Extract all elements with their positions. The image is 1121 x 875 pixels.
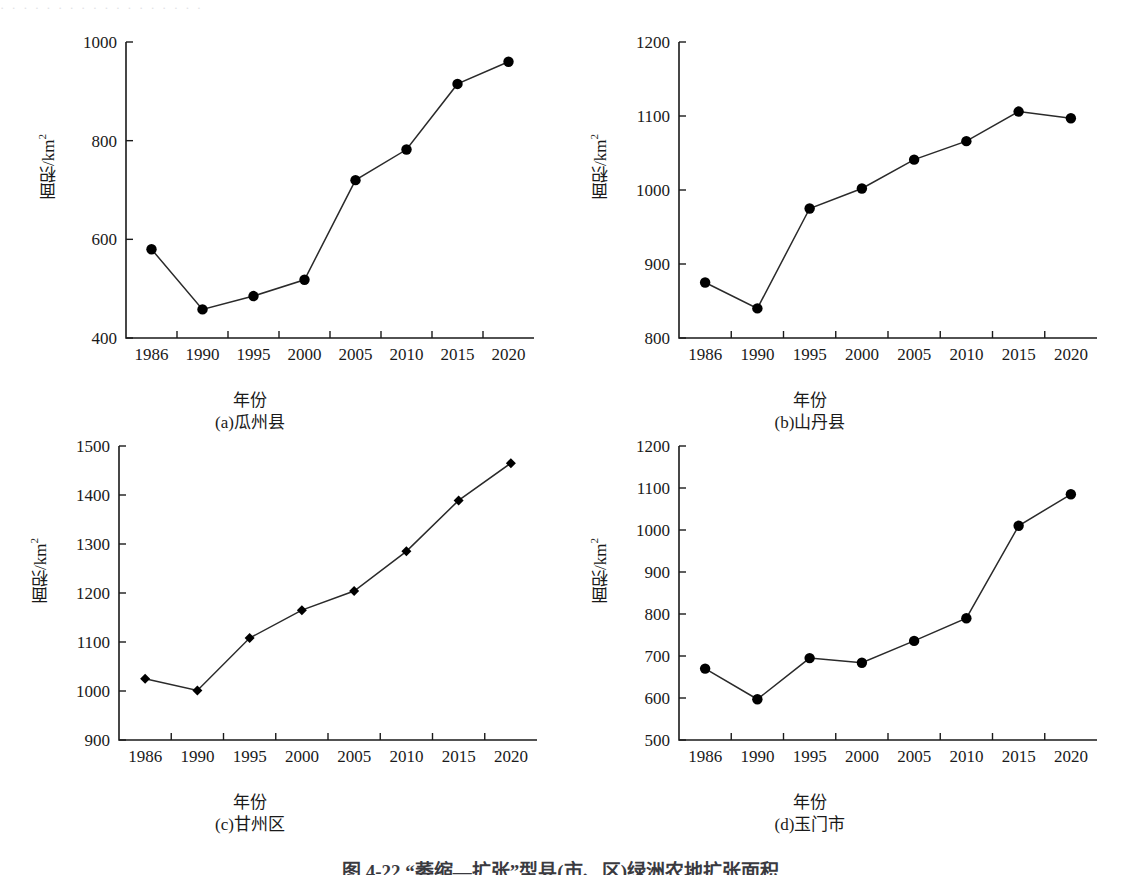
svg-text:2000: 2000 [845, 345, 879, 364]
svg-text:2005: 2005 [339, 345, 373, 364]
svg-text:2000: 2000 [288, 345, 322, 364]
svg-text:1100: 1100 [637, 479, 670, 498]
line-chart-d: 5006007008009001000110012001986199019952… [615, 434, 1105, 782]
svg-text:1200: 1200 [636, 33, 670, 52]
svg-text:1986: 1986 [135, 345, 169, 364]
svg-text:800: 800 [645, 605, 671, 624]
y-axis-unit-c: 面积/km2 [31, 538, 50, 604]
svg-text:1986: 1986 [688, 345, 722, 364]
y-axis-unit-d: 面积/km2 [591, 538, 610, 604]
svg-text:1400: 1400 [76, 486, 110, 505]
figure-panel-grid: 面积/km2 400600800100019861990199520002005… [0, 14, 1121, 824]
svg-text:1995: 1995 [793, 345, 827, 364]
svg-text:800: 800 [645, 329, 671, 348]
plot-area-b: 8009001000110012001986199019952000200520… [615, 30, 1105, 380]
svg-text:2005: 2005 [897, 747, 931, 766]
svg-text:2000: 2000 [285, 747, 319, 766]
y-axis-label-a: 面积/km2 [36, 134, 61, 200]
svg-text:1200: 1200 [76, 584, 110, 603]
line-chart-b: 8009001000110012001986199019952000200520… [615, 30, 1105, 380]
svg-text:600: 600 [645, 689, 671, 708]
svg-text:1990: 1990 [740, 345, 774, 364]
svg-text:900: 900 [645, 563, 671, 582]
subplot-caption-c: (c)甘州区 [170, 810, 330, 835]
svg-text:900: 900 [85, 731, 111, 750]
svg-text:2015: 2015 [441, 345, 475, 364]
svg-text:500: 500 [645, 731, 671, 750]
figure-caption: 图 4-22 “萎缩—扩张”型县(市、区)绿洲农地扩张面积 [0, 857, 1121, 875]
svg-text:1000: 1000 [83, 33, 117, 52]
svg-text:1995: 1995 [793, 747, 827, 766]
y-axis-label-d: 面积/km2 [588, 538, 613, 604]
svg-text:1300: 1300 [76, 535, 110, 554]
plot-area-a: 4006008001000198619901995200020052010201… [62, 30, 542, 380]
page-top-text-artifact: · · · · · · · · · · · · · · · · · · [0, 0, 1121, 14]
svg-text:2000: 2000 [845, 747, 879, 766]
svg-text:1995: 1995 [237, 345, 271, 364]
chart-panel-d: 面积/km2 500600700800900100011001200198619… [560, 420, 1121, 824]
svg-text:1000: 1000 [76, 682, 110, 701]
plot-area-d: 5006007008009001000110012001986199019952… [615, 434, 1105, 782]
svg-text:2015: 2015 [1002, 345, 1036, 364]
line-chart-a: 4006008001000198619901995200020052010201… [62, 30, 542, 380]
svg-text:900: 900 [645, 255, 671, 274]
svg-text:1986: 1986 [688, 747, 722, 766]
line-chart-c: 9001000110012001300140015001986199019952… [55, 434, 545, 782]
svg-text:600: 600 [92, 230, 118, 249]
svg-text:700: 700 [645, 647, 671, 666]
svg-text:2010: 2010 [390, 345, 424, 364]
subplot-caption-d: (d)玉门市 [730, 810, 890, 835]
svg-text:1100: 1100 [77, 633, 110, 652]
svg-text:1990: 1990 [186, 345, 220, 364]
svg-text:2020: 2020 [1054, 747, 1088, 766]
chart-panel-b: 面积/km2 800900100011001200198619901995200… [560, 14, 1121, 420]
svg-text:2020: 2020 [1054, 345, 1088, 364]
svg-text:2010: 2010 [389, 747, 423, 766]
svg-text:1990: 1990 [180, 747, 214, 766]
svg-text:400: 400 [92, 329, 118, 348]
plot-area-c: 9001000110012001300140015001986199019952… [55, 434, 545, 782]
svg-text:800: 800 [92, 132, 118, 151]
svg-text:1000: 1000 [636, 181, 670, 200]
svg-text:1990: 1990 [740, 747, 774, 766]
chart-panel-a: 面积/km2 400600800100019861990199520002005… [0, 14, 560, 420]
svg-text:1000: 1000 [636, 521, 670, 540]
svg-text:1100: 1100 [637, 107, 670, 126]
svg-text:2015: 2015 [1002, 747, 1036, 766]
svg-text:1500: 1500 [76, 437, 110, 456]
svg-text:2005: 2005 [897, 345, 931, 364]
y-axis-unit-b: 面积/km2 [591, 134, 610, 200]
chart-panel-c: 面积/km2 900100011001200130014001500198619… [0, 420, 560, 824]
svg-text:2005: 2005 [337, 747, 371, 766]
svg-text:2010: 2010 [949, 345, 983, 364]
svg-text:1986: 1986 [128, 747, 162, 766]
svg-text:1200: 1200 [636, 437, 670, 456]
svg-text:1995: 1995 [233, 747, 267, 766]
svg-text:2010: 2010 [949, 747, 983, 766]
svg-text:2020: 2020 [492, 345, 526, 364]
y-axis-label-c: 面积/km2 [28, 538, 53, 604]
y-axis-label-b: 面积/km2 [588, 134, 613, 200]
y-axis-unit-a: 面积/km2 [39, 134, 58, 200]
svg-text:2015: 2015 [442, 747, 476, 766]
svg-text:2020: 2020 [494, 747, 528, 766]
